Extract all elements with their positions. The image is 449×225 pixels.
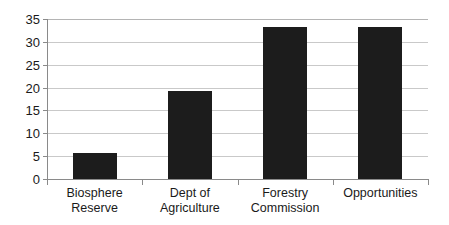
y-axis-tick-mark <box>43 88 48 89</box>
x-axis-tick-mark <box>142 180 143 185</box>
x-axis-label-line: Commission <box>238 201 333 216</box>
y-axis-tick-label: 35 <box>2 13 40 26</box>
plot-area <box>47 19 428 179</box>
x-axis-category-label: BiosphereReserve <box>47 186 142 216</box>
y-axis-tick-label: 15 <box>2 104 40 117</box>
x-axis-label-line: Agriculture <box>142 201 237 216</box>
y-axis-tick-mark <box>43 133 48 134</box>
bar-chart: 05101520253035 BiosphereReserveDept ofAg… <box>0 0 449 225</box>
x-axis-category-label: ForestryCommission <box>238 186 333 216</box>
x-axis-label-line: Opportunities <box>343 186 417 200</box>
bar <box>73 153 117 179</box>
x-axis-tick-mark <box>428 180 429 185</box>
x-axis-tick-mark <box>47 180 48 185</box>
x-axis-label-line: Biosphere <box>66 186 122 200</box>
y-axis-tick-label: 0 <box>2 173 40 186</box>
y-axis-tick-label: 20 <box>2 82 40 95</box>
y-axis-tick-label: 5 <box>2 150 40 163</box>
y-axis-tick-label: 25 <box>2 59 40 72</box>
y-axis-tick-mark <box>43 156 48 157</box>
bar <box>168 91 212 179</box>
y-axis-tick-mark <box>43 65 48 66</box>
x-axis-tick-mark <box>333 180 334 185</box>
y-axis-tick-mark <box>43 42 48 43</box>
y-axis-tick-label: 10 <box>2 127 40 140</box>
x-axis-category-labels: BiosphereReserveDept ofAgricultureForest… <box>47 186 428 222</box>
y-axis-tick-label: 30 <box>2 36 40 49</box>
gridline <box>47 19 428 20</box>
y-axis-tick-mark <box>43 110 48 111</box>
x-axis-label-line: Forestry <box>262 186 308 200</box>
y-axis-tick-labels: 05101520253035 <box>0 0 40 225</box>
bar <box>358 27 402 179</box>
x-axis-category-label: Dept ofAgriculture <box>142 186 237 216</box>
y-axis-tick-mark <box>43 19 48 20</box>
x-axis-tick-mark <box>238 180 239 185</box>
x-axis-label-line: Reserve <box>47 201 142 216</box>
x-axis-category-label: Opportunities <box>333 186 428 201</box>
bar <box>263 27 307 179</box>
x-axis-label-line: Dept of <box>170 186 210 200</box>
